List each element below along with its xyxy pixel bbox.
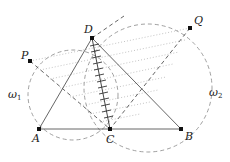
omega-1-subscript: 1 (17, 94, 21, 102)
segment-pc (30, 61, 110, 129)
point-a (37, 127, 41, 131)
label-omega-2: ω2 (209, 86, 222, 100)
omega-2-symbol: ω (209, 86, 218, 99)
label-a: A (31, 132, 40, 145)
label-omega-1: ω1 (8, 88, 21, 102)
label-q: Q (194, 14, 203, 27)
segment-dc-hatched (90, 38, 113, 129)
label-c: C (106, 133, 115, 146)
point-d (90, 36, 94, 40)
dotted-parallel-lines (30, 28, 190, 122)
point-b (179, 127, 183, 131)
point-c (108, 127, 112, 131)
label-b: B (184, 130, 193, 143)
segment-qc (110, 28, 190, 129)
segment-db (92, 38, 181, 129)
point-p (28, 59, 32, 63)
omega-1-symbol: ω (8, 88, 17, 101)
geometry-diagram: A B C D P Q ω1 ω2 (0, 0, 230, 162)
omega-2-subscript: 2 (218, 92, 222, 100)
segment-dq (92, 16, 124, 38)
point-q (188, 26, 192, 30)
label-p: P (20, 49, 29, 62)
label-d: D (83, 23, 93, 36)
